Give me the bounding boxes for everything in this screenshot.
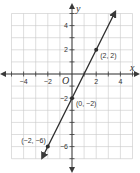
y-axis-label: y (75, 3, 81, 14)
x-tick-label: 2 (94, 78, 98, 85)
data-point (70, 96, 74, 100)
y-tick-label: −2 (60, 95, 68, 102)
x-tick-label: −2 (44, 78, 52, 85)
data-point-label: (−2, −6) (21, 137, 46, 145)
x-tick-label: −4 (20, 78, 28, 85)
y-tick-label: 4 (64, 22, 68, 29)
data-point (94, 48, 98, 52)
series (43, 14, 114, 157)
series-line (43, 14, 114, 157)
x-tick-label: 4 (118, 78, 122, 85)
data-point-label: (2, 2) (100, 52, 116, 60)
data-point-label: (0, −2) (76, 100, 96, 108)
y-tick-label: 2 (64, 46, 68, 53)
origin-label: O (62, 75, 69, 86)
coordinate-plane: −4−22442−2−6 (2, 2)(0, −2)(−2, −6) x y O (0, 0, 140, 173)
y-tick-label: −6 (60, 143, 68, 150)
axes (3, 6, 137, 170)
data-point (46, 145, 50, 149)
x-axis-label: x (129, 62, 135, 73)
